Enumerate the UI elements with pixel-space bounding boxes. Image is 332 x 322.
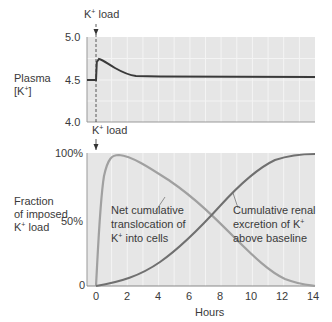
- cells-label-line1: Net cumulative: [111, 203, 186, 217]
- cells-label-line2: translocation of: [111, 217, 186, 231]
- bottom-ylabel-line1: Fraction: [14, 195, 68, 208]
- bottom-ylabel-line3: K+ load: [14, 221, 68, 234]
- xtick-12: 12: [276, 290, 288, 302]
- xtick-14: 14: [307, 290, 319, 302]
- xtick-6: 6: [186, 290, 192, 302]
- xtick-10: 10: [245, 290, 257, 302]
- top-plot-area: [87, 24, 315, 122]
- x-axis-label: Hours: [195, 306, 224, 319]
- xtick-2: 2: [124, 290, 130, 302]
- top-ytick-5-0: 5.0: [65, 31, 80, 43]
- renal-curve-label: Cumulative renal excretion of K+ above b…: [233, 203, 316, 245]
- top-ylabel-line2: [K+]: [14, 85, 51, 98]
- top-ytick-4-0: 4.0: [65, 116, 80, 128]
- renal-label-line2: excretion of K+: [233, 217, 316, 231]
- renal-label-line3: above baseline: [233, 231, 316, 245]
- xtick-0: 0: [93, 290, 99, 302]
- xtick-8: 8: [217, 290, 223, 302]
- xtick-4: 4: [155, 290, 161, 302]
- top-ylabel-line1: Plasma: [14, 72, 51, 85]
- renal-label-line1: Cumulative renal: [233, 203, 316, 217]
- bottom-ytick-100: 100%: [55, 147, 83, 159]
- top-k-load-annotation: K+ load: [84, 8, 119, 21]
- top-ytick-4-5: 4.5: [65, 74, 80, 86]
- bottom-k-load-annotation: K+ load: [92, 124, 127, 137]
- top-ylabel: Plasma [K+]: [14, 72, 51, 98]
- bottom-ytick-50: 50%: [61, 215, 83, 227]
- cells-label-line3: K+ into cells: [111, 231, 186, 245]
- cells-curve-label: Net cumulative translocation of K+ into …: [111, 203, 186, 245]
- bottom-ylabel-line2: of imposed: [14, 208, 68, 221]
- chart-canvas: [0, 0, 332, 322]
- bottom-ylabel: Fraction of imposed K+ load: [14, 195, 68, 234]
- bottom-ytick-0: 0: [79, 279, 85, 291]
